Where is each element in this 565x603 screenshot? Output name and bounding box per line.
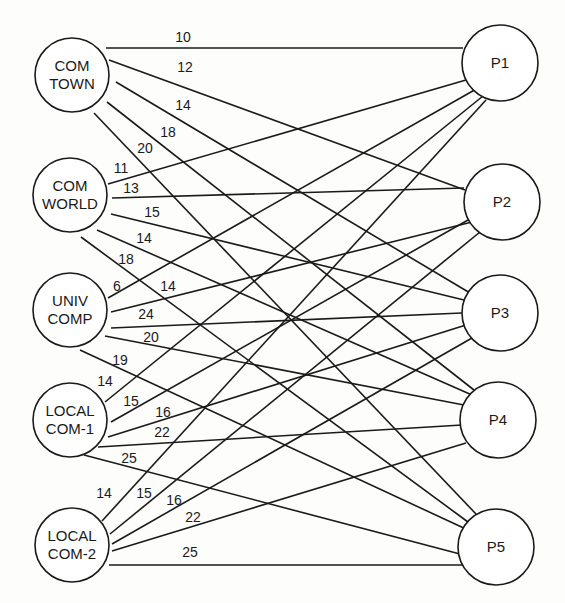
edge-weight-label: 15: [136, 485, 152, 501]
node-label: P2: [493, 193, 511, 210]
edge-weight-label: 13: [123, 180, 139, 196]
node-p4: P4: [460, 382, 536, 458]
edge-weight-label: 22: [154, 424, 170, 440]
edge-weight-label: 25: [121, 450, 137, 466]
node-label: P3: [491, 304, 509, 321]
edge-weight-label: 14: [136, 230, 152, 246]
edge-localcom1-p1: [105, 96, 483, 402]
node-label: LOCAL: [47, 527, 96, 544]
edge-univcomp-p2: [111, 222, 472, 312]
edge-weight-label: 12: [177, 59, 193, 75]
node-label: P1: [491, 54, 509, 71]
node-label: P4: [489, 411, 507, 428]
node-comtown: COMTOWN: [35, 38, 109, 112]
edge-weight-label: 20: [137, 140, 153, 156]
edge-localcom1-p2: [111, 220, 468, 422]
node-p2: P2: [464, 164, 540, 240]
node-label: WORLD: [42, 195, 98, 212]
node-label: COM-2: [48, 545, 96, 562]
node-comworld: COMWORLD: [33, 158, 107, 232]
node-label: LOCAL: [45, 402, 94, 419]
edge-localcom2-p3: [112, 338, 472, 544]
node-label: UNIV: [52, 292, 88, 309]
edge-weight-label: 16: [166, 492, 182, 508]
edge-weight-label: 10: [175, 29, 191, 45]
edge-weight-label: 6: [113, 278, 121, 294]
node-p5: P5: [458, 509, 534, 585]
node-label: COM: [53, 177, 88, 194]
edge-localcom2-p4: [112, 443, 466, 551]
bipartite-graph: 1012141820111315141861424201914151622251…: [0, 0, 565, 603]
edge-weight-label: 14: [160, 278, 176, 294]
node-label: P5: [487, 538, 505, 555]
edge-weight-label: 11: [114, 160, 129, 176]
node-p1: P1: [462, 25, 538, 101]
node-label: TOWN: [49, 75, 95, 92]
edge-localcom2-p1: [102, 100, 486, 521]
node-p3: P3: [462, 275, 538, 351]
edge-weight-label: 22: [185, 509, 201, 525]
edge-weight-label: 15: [144, 204, 160, 220]
edge-localcom1-p3: [108, 325, 466, 437]
node-label: COM: [55, 57, 90, 74]
edge-weight-label: 16: [155, 404, 171, 420]
edge-weight-label: 18: [160, 124, 176, 140]
edge-localcom1-p4: [98, 425, 462, 447]
edge-localcom1-p5: [84, 455, 460, 554]
node-localcom1: LOCALCOM-1: [33, 383, 107, 457]
node-localcom2: LOCALCOM-2: [35, 508, 109, 582]
edge-weight-label: 19: [112, 352, 128, 368]
edge-weight-label: 25: [182, 544, 198, 560]
edge-labels-layer: 1012141820111315141861424201914151622251…: [96, 29, 201, 560]
edge-weight-label: 15: [123, 393, 139, 409]
edge-weight-label: 14: [175, 97, 191, 113]
edge-weight-label: 14: [97, 373, 113, 389]
node-label: COMP: [48, 310, 93, 327]
node-univcomp: UNIVCOMP: [33, 273, 107, 347]
edge-weight-label: 20: [143, 329, 159, 345]
edge-univcomp-p5: [80, 350, 468, 530]
edge-weight-label: 18: [118, 251, 134, 267]
node-label: COM-1: [46, 420, 94, 437]
edge-weight-label: 14: [96, 485, 112, 501]
edge-weight-label: 24: [138, 306, 154, 322]
